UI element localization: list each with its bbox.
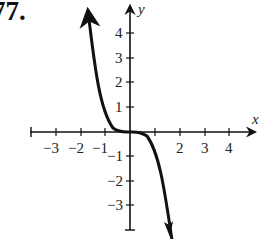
y-tick-label: 3 xyxy=(115,50,123,66)
x-tick-label: 2 xyxy=(176,140,184,156)
x-tick-label: 3 xyxy=(201,140,209,156)
y-tick-label: −2 xyxy=(107,173,123,189)
y-axis-label: y xyxy=(136,1,145,17)
y-axis xyxy=(125,6,135,230)
x-tick-label: −1 xyxy=(92,140,108,156)
y-tick-label: 4 xyxy=(115,25,123,41)
y-tick-label: −1 xyxy=(107,148,123,164)
x-tick-label: −3 xyxy=(43,140,59,156)
x-tick-label: 4 xyxy=(225,140,233,156)
cubic-graph: x y −3 −2 −1 2 3 4 4 3 2 1 −1 −2 −3 xyxy=(0,0,261,239)
y-tick-label: 2 xyxy=(115,74,123,90)
y-tick-label: 1 xyxy=(115,99,123,115)
x-axis-label: x xyxy=(251,111,259,127)
y-tick-label: −3 xyxy=(107,197,123,213)
x-tick-label: −2 xyxy=(68,140,84,156)
